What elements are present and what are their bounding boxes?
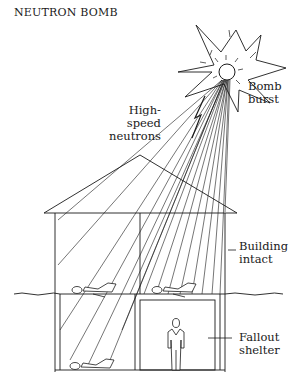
neutrons-label: High-speed neutrons (104, 104, 161, 143)
house (44, 155, 237, 372)
casualty-figure (72, 283, 116, 297)
survivor-figure (168, 319, 184, 371)
bomb-burst-label: Bomb burst (248, 80, 282, 106)
casualty-figure (70, 359, 114, 370)
fallout-shelter-label: Fallout shelter (239, 331, 280, 357)
ground-line (14, 293, 283, 295)
building-intact-label: Building intact (239, 240, 288, 266)
neutron-bomb-illustration (0, 0, 294, 373)
